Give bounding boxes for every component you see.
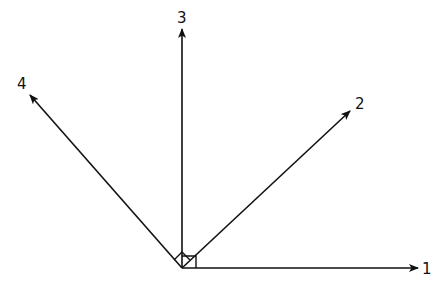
vector-3-label: 3 — [177, 9, 187, 27]
vector-diagram: 1 2 3 4 — [0, 0, 445, 285]
vector-2-arrow — [182, 111, 350, 268]
vector-2-label: 2 — [355, 95, 365, 113]
vector-4-arrow — [30, 95, 182, 268]
vector-1-label: 1 — [422, 260, 432, 278]
vector-4-label: 4 — [17, 75, 27, 93]
